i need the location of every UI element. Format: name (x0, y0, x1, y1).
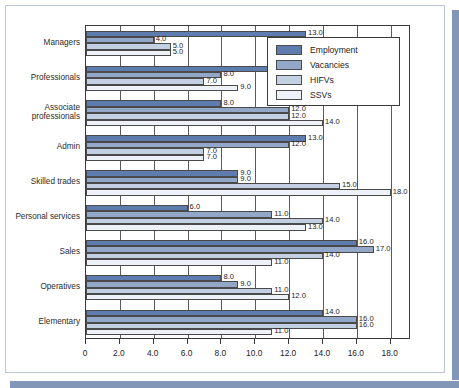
legend-swatch-vacancies (276, 60, 302, 70)
data-label-hifvs-personal-services: 14.0 (325, 216, 340, 224)
legend-label-ssvs: SSVs (310, 89, 332, 101)
bar-ssvs-personal-services (86, 224, 306, 230)
legend-swatch-hifvs (276, 75, 302, 85)
data-label-employment-personal-services: 6.0 (190, 203, 201, 211)
bar-ssvs-sales (86, 259, 272, 265)
data-label-ssvs-skilled-trades: 18.0 (393, 188, 408, 196)
x-tick-12.0 (288, 339, 289, 344)
x-tick-18.0 (390, 339, 391, 344)
chart-plot-wrapper: ManagersProfessionalsAssociate professio… (6, 6, 446, 374)
category-label-managers: Managers (44, 38, 80, 48)
data-label-ssvs-sales: 11.0 (274, 258, 288, 266)
data-label-employment-sales: 16.0 (359, 238, 374, 246)
category-label-skilled-trades: Skilled trades (31, 177, 80, 187)
data-label-ssvs-elementary: 11.0 (274, 327, 288, 335)
data-label-employment-associate-professionals: 8.0 (223, 99, 234, 107)
category-label-associate-professionals: Associate professionals (8, 103, 80, 122)
data-label-hifvs-sales: 14.0 (325, 251, 340, 259)
legend-label-employment: Employment (310, 44, 358, 56)
x-tick-0 (85, 339, 86, 344)
x-tick-label-14.0: 14.0 (314, 348, 330, 358)
legend-swatch-ssvs (276, 90, 302, 100)
x-tick-6.0 (187, 339, 188, 344)
x-tick-16.0 (356, 339, 357, 344)
x-tick-8.0 (220, 339, 221, 344)
bar-ssvs-operatives (86, 294, 289, 300)
x-tick-label-4.0: 4.0 (147, 348, 159, 358)
x-tick-14.0 (322, 339, 323, 344)
figure-frame: ManagersProfessionalsAssociate professio… (0, 0, 459, 388)
bar-ssvs-skilled-trades (86, 189, 391, 195)
x-tick-4.0 (153, 339, 154, 344)
data-label-hifvs-skilled-trades: 15.0 (342, 181, 357, 189)
category-axis-labels: ManagersProfessionalsAssociate professio… (6, 25, 83, 339)
category-label-admin: Admin (57, 142, 80, 152)
data-label-hifvs-associate-professionals: 12.0 (291, 112, 306, 120)
x-tick-label-16.0: 16.0 (348, 348, 364, 358)
x-tick-label-18.0: 18.0 (382, 348, 398, 358)
bar-ssvs-professionals (86, 85, 238, 91)
x-tick-label-10.0: 10.0 (246, 348, 262, 358)
data-label-hifvs-professionals: 7.0 (206, 77, 217, 85)
legend-label-hifvs: HIFVs (310, 74, 334, 86)
data-label-vacancies-managers: 4.0 (156, 35, 167, 43)
data-label-ssvs-personal-services: 13.0 (308, 223, 323, 231)
data-label-employment-elementary: 14.0 (325, 308, 340, 316)
x-tick-label-12.0: 12.0 (280, 348, 296, 358)
figure-shadow-bottom (10, 381, 459, 388)
data-label-vacancies-admin: 12.0 (291, 140, 306, 148)
x-tick-10.0 (254, 339, 255, 344)
data-label-vacancies-operatives: 9.0 (240, 280, 251, 288)
x-tick-2.0 (119, 339, 120, 344)
data-label-ssvs-associate-professionals: 14.0 (325, 118, 340, 126)
figure-shadow-right (452, 10, 459, 380)
data-label-ssvs-operatives: 12.0 (291, 292, 306, 300)
bar-ssvs-admin (86, 155, 204, 161)
data-label-vacancies-personal-services: 11.0 (274, 210, 288, 218)
x-tick-label-6.0: 6.0 (181, 348, 193, 358)
x-tick-label-2.0: 2.0 (113, 348, 125, 358)
x-tick-label-8.0: 8.0 (215, 348, 227, 358)
category-label-operatives: Operatives (40, 282, 80, 292)
data-label-vacancies-professionals: 8.0 (223, 70, 234, 78)
category-label-professionals: Professionals (31, 73, 80, 83)
data-label-employment-admin: 13.0 (308, 134, 323, 142)
x-tick-label-0: 0 (83, 348, 88, 358)
data-label-hifvs-elementary: 16.0 (359, 321, 374, 329)
bar-ssvs-managers (86, 50, 171, 56)
legend-label-vacancies: Vacancies (310, 59, 349, 71)
data-label-hifvs-operatives: 11.0 (274, 286, 288, 294)
chart-legend: EmploymentVacanciesHIFVsSSVs (267, 37, 400, 106)
legend-swatch-employment (276, 45, 302, 55)
figure-border: ManagersProfessionalsAssociate professio… (5, 5, 445, 373)
category-label-sales: Sales (60, 247, 80, 257)
data-label-vacancies-sales: 17.0 (376, 245, 391, 253)
bar-ssvs-associate-professionals (86, 120, 323, 126)
data-label-employment-managers: 13.0 (308, 29, 323, 37)
category-label-elementary: Elementary (39, 317, 80, 327)
data-label-ssvs-managers: 5.0 (173, 48, 184, 56)
data-label-ssvs-professionals: 9.0 (240, 83, 251, 91)
category-label-personal-services: Personal services (15, 212, 80, 222)
data-label-employment-operatives: 8.0 (223, 273, 234, 281)
data-label-ssvs-admin: 7.0 (206, 153, 217, 161)
data-label-vacancies-skilled-trades: 9.0 (240, 175, 251, 183)
bar-ssvs-elementary (86, 329, 272, 335)
